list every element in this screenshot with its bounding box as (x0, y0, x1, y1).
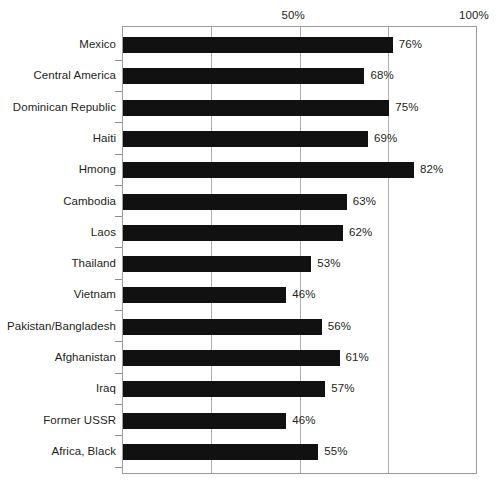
bar (123, 381, 325, 397)
gridline-25 (211, 27, 212, 473)
axis-tick-mark (115, 404, 122, 405)
bar-value-label: 57% (331, 380, 354, 396)
category-label: Cambodia (0, 193, 116, 209)
bar (123, 162, 414, 178)
axis-tick-mark (115, 373, 122, 374)
bar-value-label: 55% (324, 443, 347, 459)
axis-tick-label-100: 100% (459, 9, 489, 21)
category-label: Haiti (0, 130, 116, 146)
category-label: Pakistan/Bangladesh (0, 318, 116, 334)
bar (123, 256, 311, 272)
bar-value-label: 68% (370, 67, 393, 83)
axis-tick-mark (115, 279, 122, 280)
axis-tick-mark (115, 467, 122, 468)
category-label: Africa, Black (0, 443, 116, 459)
bar-value-label: 56% (328, 318, 351, 334)
category-label: Former USSR (0, 412, 116, 428)
bar (123, 350, 340, 366)
bar-chart: 50%100% MexicoCentral AmericaDominican R… (0, 0, 502, 489)
gridline-75 (388, 27, 389, 473)
bar-value-label: 82% (420, 161, 443, 177)
gridline-50 (300, 27, 301, 473)
category-label: Laos (0, 224, 116, 240)
category-label: Hmong (0, 161, 116, 177)
axis-tick-mark (115, 60, 122, 61)
axis-tick-mark (115, 154, 122, 155)
category-label: Thailand (0, 255, 116, 271)
axis-tick-mark (115, 247, 122, 248)
bar (123, 68, 364, 84)
category-label: Dominican Republic (0, 99, 116, 115)
axis-tick-label-50: 50% (282, 9, 305, 21)
bar (123, 319, 322, 335)
axis-tick-mark (115, 341, 122, 342)
bar (123, 413, 286, 429)
category-label: Afghanistan (0, 349, 116, 365)
bar-value-label: 76% (399, 36, 422, 52)
axis-tick-mark (115, 435, 122, 436)
axis-tick-mark (115, 185, 122, 186)
bar-value-label: 69% (374, 130, 397, 146)
bar-value-label: 61% (346, 349, 369, 365)
bar (123, 225, 343, 241)
category-label: Iraq (0, 380, 116, 396)
bar-value-label: 63% (353, 193, 376, 209)
bar-value-label: 75% (395, 99, 418, 115)
axis-tick-mark (115, 310, 122, 311)
category-label: Mexico (0, 36, 116, 52)
category-label: Vietnam (0, 286, 116, 302)
bar (123, 37, 393, 53)
bar (123, 131, 368, 147)
bar (123, 287, 286, 303)
category-label: Central America (0, 67, 116, 83)
bar-value-label: 46% (292, 412, 315, 428)
axis-tick-mark (115, 122, 122, 123)
bar (123, 194, 347, 210)
bar (123, 444, 318, 460)
bar-value-label: 62% (349, 224, 372, 240)
axis-tick-mark (115, 91, 122, 92)
axis-tick-mark (115, 216, 122, 217)
bar-value-label: 53% (317, 255, 340, 271)
bar-value-label: 46% (292, 286, 315, 302)
bar (123, 100, 389, 116)
plot-area (122, 26, 477, 474)
